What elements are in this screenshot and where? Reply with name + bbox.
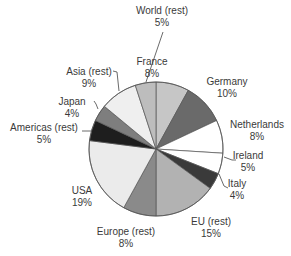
- label-netherlands: Netherlands8%: [230, 119, 284, 143]
- label-italy: Italy4%: [228, 178, 246, 202]
- label-europe-rest: Europe (rest)8%: [97, 226, 155, 250]
- label-world-rest: World (rest)5%: [136, 5, 188, 29]
- label-germany: Germany10%: [206, 76, 247, 100]
- pie-slices: [89, 82, 223, 216]
- leader-line: [219, 174, 228, 188]
- label-eu-rest: EU (rest)15%: [191, 216, 231, 240]
- label-france: France8%: [136, 56, 167, 80]
- leader-line: [82, 131, 92, 132]
- label-americas-rest: Americas (rest)5%: [10, 122, 78, 146]
- leader-line: [94, 101, 98, 109]
- label-japan: Japan4%: [58, 96, 85, 120]
- leader-line: [113, 71, 119, 91]
- label-usa: USA19%: [72, 185, 93, 209]
- label-asia-rest: Asia (rest)9%: [66, 66, 112, 90]
- label-ireland: Ireland5%: [233, 150, 264, 174]
